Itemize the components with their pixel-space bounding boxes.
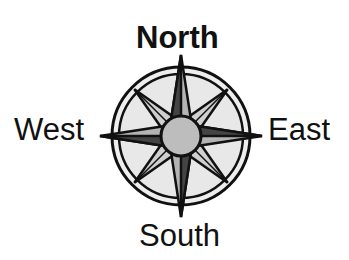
center-hub: [161, 116, 201, 156]
compass-rose-icon: [0, 0, 349, 260]
